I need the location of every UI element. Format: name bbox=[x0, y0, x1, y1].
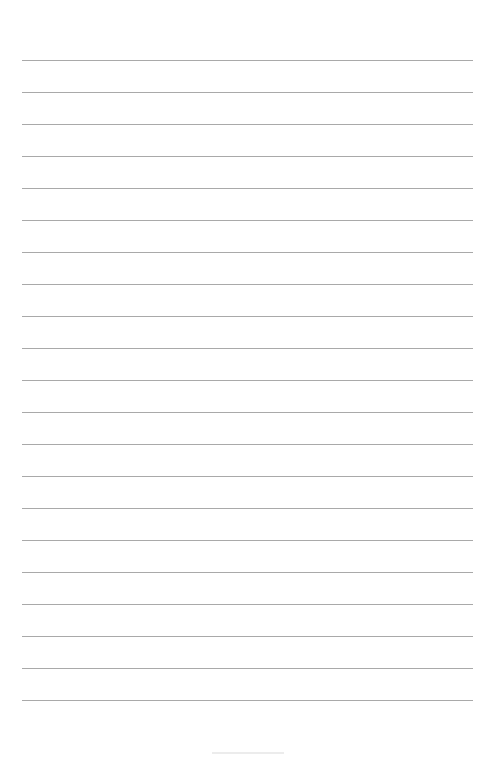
footer-watermark bbox=[212, 752, 284, 754]
ruled-line bbox=[22, 380, 473, 381]
ruled-line bbox=[22, 92, 473, 93]
ruled-line bbox=[22, 284, 473, 285]
ruled-line bbox=[22, 124, 473, 125]
ruled-line bbox=[22, 572, 473, 573]
ruled-line bbox=[22, 156, 473, 157]
ruled-line bbox=[22, 316, 473, 317]
ruled-line bbox=[22, 220, 473, 221]
ruled-line bbox=[22, 700, 473, 701]
ruled-line bbox=[22, 60, 473, 61]
ruled-line bbox=[22, 348, 473, 349]
ruled-line bbox=[22, 188, 473, 189]
ruled-line bbox=[22, 668, 473, 669]
ruled-line bbox=[22, 444, 473, 445]
ruled-line bbox=[22, 636, 473, 637]
ruled-line bbox=[22, 604, 473, 605]
ruled-line bbox=[22, 412, 473, 413]
lined-page bbox=[0, 0, 495, 759]
ruled-line bbox=[22, 508, 473, 509]
ruled-line bbox=[22, 252, 473, 253]
ruled-line bbox=[22, 476, 473, 477]
ruled-line bbox=[22, 540, 473, 541]
